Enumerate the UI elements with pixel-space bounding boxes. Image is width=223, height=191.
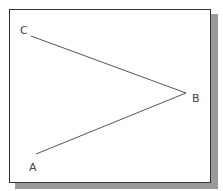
segment-cb xyxy=(31,36,186,93)
angle-diagram: C B A xyxy=(0,0,223,191)
point-label-c: C xyxy=(20,24,28,37)
point-label-b: B xyxy=(192,92,200,105)
point-label-a: A xyxy=(29,161,37,174)
segment-ba xyxy=(36,93,186,154)
